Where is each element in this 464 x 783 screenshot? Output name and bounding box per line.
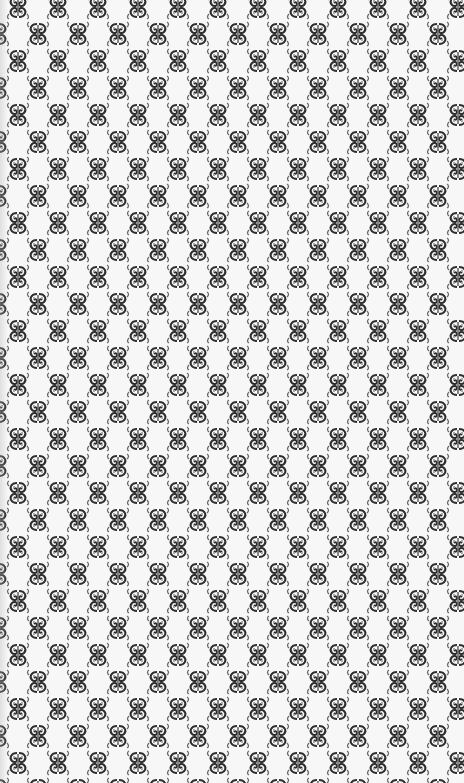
ornament-tiling xyxy=(0,0,464,783)
ornament-pattern xyxy=(0,0,464,783)
patterned-paper xyxy=(0,0,464,783)
